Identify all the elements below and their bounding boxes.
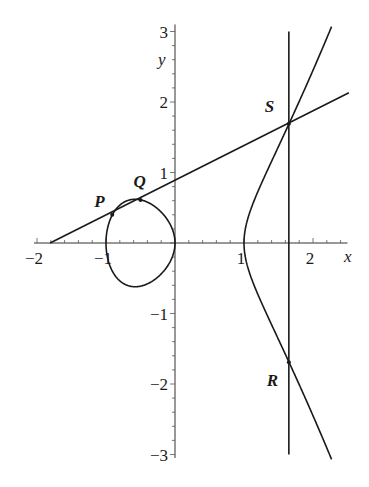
x-axis-label: x (343, 247, 352, 266)
elliptic-curve-plot: −2−112−3−2−1123xyPQSR (0, 0, 369, 487)
y-tick-label: −2 (150, 375, 168, 394)
point-s (287, 122, 291, 126)
point-label-q: Q (134, 172, 146, 191)
point-p (110, 213, 114, 217)
point-label-r: R (266, 371, 278, 390)
secant-line (50, 93, 349, 243)
point-label-p: P (93, 192, 105, 211)
x-tick-label: 2 (306, 249, 315, 268)
axes (34, 24, 348, 458)
point-label-s: S (265, 97, 274, 116)
y-tick-label: 3 (160, 23, 169, 42)
y-tick-label: 2 (160, 93, 169, 112)
y-axis-label: y (156, 50, 166, 69)
x-tick-label: −2 (25, 249, 43, 268)
y-tick-label: −1 (150, 305, 168, 324)
x-tick-label: 1 (237, 249, 246, 268)
x-tick-label: −1 (94, 249, 112, 268)
y-tick-label: 1 (160, 164, 169, 183)
point-q (139, 198, 143, 202)
point-r (287, 360, 291, 364)
y-tick-label: −3 (150, 446, 168, 465)
